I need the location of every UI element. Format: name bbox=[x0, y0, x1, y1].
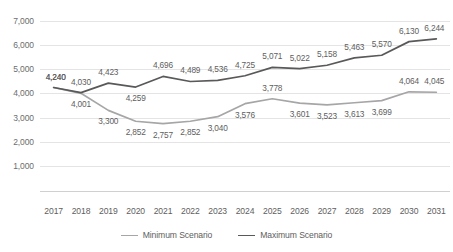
data-point-label: 4,259 bbox=[126, 93, 146, 103]
legend-label: Maximum Scenario bbox=[260, 230, 332, 240]
data-point-label: 4,001 bbox=[71, 99, 91, 109]
x-axis-tick-label: 2027 bbox=[318, 206, 337, 216]
data-point-label: 3,300 bbox=[98, 116, 118, 126]
legend-line-swatch bbox=[238, 235, 255, 236]
x-axis-tick-label: 2031 bbox=[427, 206, 446, 216]
x-axis-tick-label: 2024 bbox=[236, 206, 255, 216]
x-axis-tick-label: 2026 bbox=[290, 206, 309, 216]
data-point-label: 6,130 bbox=[399, 26, 419, 36]
y-axis-tick-label: 4,000 bbox=[13, 88, 34, 98]
legend-item[interactable]: Minimum Scenario bbox=[121, 230, 213, 240]
data-point-label: 2,852 bbox=[180, 127, 200, 137]
data-point-label: 2,757 bbox=[153, 130, 173, 140]
data-point-label: 3,778 bbox=[262, 83, 282, 93]
data-point-label: 4,489 bbox=[180, 65, 200, 75]
data-point-label: 5,158 bbox=[317, 49, 337, 59]
data-point-label: 3,523 bbox=[317, 111, 337, 121]
data-point-label: 4,030 bbox=[71, 77, 91, 87]
legend-line-swatch bbox=[121, 235, 138, 236]
data-point-label: 5,071 bbox=[262, 51, 282, 61]
line-chart: 1,0002,0003,0004,0005,0006,0007,000 4,24… bbox=[0, 0, 453, 252]
data-point-label: 5,022 bbox=[290, 53, 310, 63]
x-axis-tick-label: 2018 bbox=[72, 206, 91, 216]
legend-item[interactable]: Maximum Scenario bbox=[238, 230, 332, 240]
data-point-label: 5,463 bbox=[344, 42, 364, 52]
x-axis-tick-label: 2025 bbox=[263, 206, 282, 216]
data-point-label: 4,696 bbox=[153, 60, 173, 70]
y-axis: 1,0002,0003,0004,0005,0006,0007,000 bbox=[0, 0, 38, 252]
data-point-label: 3,613 bbox=[344, 109, 364, 119]
y-axis-tick-label: 5,000 bbox=[13, 64, 34, 74]
data-point-label: 4,240 bbox=[46, 72, 66, 82]
chart-legend: Minimum ScenarioMaximum Scenario bbox=[0, 230, 453, 240]
data-point-label: 5,570 bbox=[372, 39, 392, 49]
y-axis-tick-label: 2,000 bbox=[13, 137, 34, 147]
x-axis-tick-label: 2020 bbox=[126, 206, 145, 216]
x-axis-tick-label: 2029 bbox=[372, 206, 391, 216]
x-axis-tick-label: 2017 bbox=[44, 206, 63, 216]
data-point-label: 4,045 bbox=[424, 76, 444, 86]
data-point-label: 6,244 bbox=[424, 23, 444, 33]
x-axis: 2017201820192020202120222023202420252026… bbox=[40, 206, 450, 222]
y-axis-tick-label: 6,000 bbox=[13, 40, 34, 50]
data-point-label: 4,725 bbox=[235, 60, 255, 70]
x-axis-tick-label: 2021 bbox=[154, 206, 173, 216]
data-point-label: 3,576 bbox=[235, 110, 255, 120]
x-axis-tick-label: 2019 bbox=[99, 206, 118, 216]
x-axis-tick-label: 2030 bbox=[400, 206, 419, 216]
x-axis-tick-label: 2023 bbox=[208, 206, 227, 216]
data-point-label: 4,064 bbox=[399, 76, 419, 86]
y-axis-tick-label: 3,000 bbox=[13, 113, 34, 123]
y-axis-tick-label: 7,000 bbox=[13, 16, 34, 26]
data-point-label: 3,040 bbox=[208, 123, 228, 133]
data-point-label: 4,536 bbox=[208, 64, 228, 74]
x-axis-tick-label: 2028 bbox=[345, 206, 364, 216]
y-axis-tick-label: 1,000 bbox=[13, 161, 34, 171]
data-point-label: 3,601 bbox=[290, 109, 310, 119]
x-axis-tick-label: 2022 bbox=[181, 206, 200, 216]
data-point-label: 3,699 bbox=[372, 107, 392, 117]
legend-label: Minimum Scenario bbox=[143, 230, 213, 240]
data-point-label: 4,423 bbox=[98, 67, 118, 77]
data-point-label: 2,852 bbox=[126, 127, 146, 137]
